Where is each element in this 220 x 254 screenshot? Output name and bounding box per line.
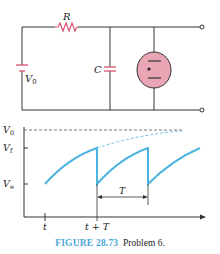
resistor-label: R (62, 11, 71, 22)
figure-number: FIGURE 28.73 (55, 238, 118, 248)
sawtooth-curve (45, 148, 200, 184)
y-label-ve: Ve (3, 178, 14, 191)
y-label-v0: V0 (3, 124, 14, 137)
circuit-wires (22, 27, 200, 110)
figure-caption: FIGURE 28.73 Problem 6. (0, 238, 220, 248)
charging-continuation (97, 131, 182, 148)
period-label: T (119, 185, 126, 196)
x-axis-arrow-icon (200, 215, 206, 220)
y-label-vf: Vf (3, 142, 13, 155)
resistor-icon (55, 23, 78, 31)
battery-icon (16, 65, 28, 71)
circuit-diagram: R V0 C (16, 11, 204, 112)
neon-lamp-icon (137, 52, 171, 88)
figure: R V0 C (0, 0, 220, 240)
battery-label: V0 (25, 73, 37, 86)
x-label-t-plus-T: t + T (85, 221, 110, 232)
capacitor-label: C (94, 64, 102, 75)
terminal-top (200, 25, 204, 29)
terminal-bottom (200, 108, 204, 112)
caption-text: Problem 6. (123, 238, 165, 248)
capacitor-icon (104, 67, 116, 71)
voltage-graph: V0 Vf Ve T t t + T (3, 124, 206, 232)
x-label-t: t (43, 221, 47, 232)
